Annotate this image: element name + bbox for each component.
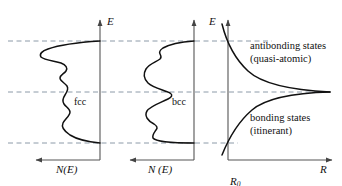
equilibrium-distance-subscript: 0: [237, 180, 241, 186]
dos-axis-label-bcc: N (E): [148, 163, 172, 175]
antibonding-label-line2: (quasi-atomic): [250, 53, 311, 65]
dos-axis-label-fcc: N(E): [56, 163, 77, 175]
bonding-label-line1: bonding states: [250, 112, 310, 124]
physics-dos-energy-diagram: E E N(E) N (E) R0 R fcc bcc antibonding …: [0, 0, 342, 186]
equilibrium-distance-symbol: R: [230, 175, 237, 186]
fcc-label: fcc: [74, 96, 86, 107]
distance-axis-label: R: [320, 163, 327, 175]
antibonding-label-line1: antibonding states: [250, 40, 326, 52]
energy-axis-label-fcc: E: [107, 15, 114, 27]
diagram-canvas: [0, 0, 342, 186]
bonding-label-line2: (itinerant): [250, 125, 292, 137]
energy-axis-label-right: E: [209, 15, 216, 27]
equilibrium-distance-label: R0: [219, 163, 240, 186]
bcc-label: bcc: [172, 96, 186, 107]
